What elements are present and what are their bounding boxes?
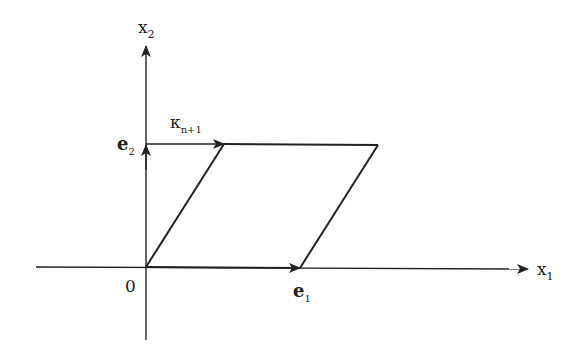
- e1-label: e1: [293, 280, 311, 304]
- origin-label: 0: [125, 276, 136, 296]
- x-axis-label: x1: [537, 259, 554, 283]
- parallelogram-top-edge: [224, 144, 378, 145]
- parallelogram-right-edge: [300, 145, 378, 268]
- e2-label: e2: [117, 133, 135, 157]
- diagram-canvas: x2 x1 0 e1 e2 κn+1: [0, 0, 573, 364]
- y-axis-label: x2: [138, 17, 155, 41]
- e1-vector: [146, 267, 300, 268]
- parallelogram-left-edge: [146, 144, 224, 267]
- kappa-label: κn+1: [170, 112, 202, 135]
